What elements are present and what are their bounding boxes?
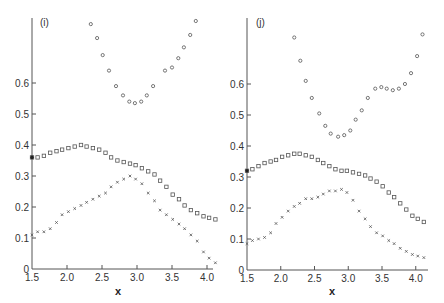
data-point (363, 174, 366, 177)
data-point (73, 207, 76, 210)
data-point (293, 152, 296, 155)
data-point (411, 214, 414, 217)
data-point (385, 87, 388, 90)
data-point (409, 72, 412, 75)
x-tick-label: 4.0 (409, 273, 423, 284)
data-point (134, 178, 137, 181)
data-point (214, 218, 217, 221)
y-tick-label: 0.6 (230, 79, 244, 90)
data-point (60, 148, 63, 151)
data-point (153, 173, 156, 176)
data-point (324, 124, 327, 127)
data-point (128, 100, 131, 103)
data-point (391, 89, 394, 92)
data-point (165, 213, 168, 216)
data-point (263, 161, 266, 164)
data-point (380, 86, 383, 89)
data-point (393, 242, 396, 245)
data-point (360, 109, 363, 112)
data-point (293, 36, 296, 39)
data-point (134, 163, 137, 166)
data-point (334, 168, 337, 171)
data-point (304, 197, 307, 200)
data-point (351, 171, 354, 174)
data-point (202, 215, 205, 218)
data-point (374, 87, 377, 90)
data-point (366, 96, 369, 99)
data-point (421, 33, 424, 36)
data-point (158, 179, 161, 182)
data-point (334, 190, 337, 193)
data-point (42, 154, 45, 157)
data-point (36, 156, 39, 159)
data-point (263, 236, 266, 239)
data-point (286, 154, 289, 157)
series-square (245, 152, 425, 224)
y-tick-label: 0.4 (230, 141, 244, 152)
data-point (73, 145, 76, 148)
data-point (190, 234, 193, 237)
data-point (275, 222, 278, 225)
y-tick-label: 0.3 (15, 171, 29, 182)
series-cross (31, 175, 217, 264)
data-point (85, 145, 88, 148)
data-point (79, 143, 82, 146)
data-point (298, 152, 301, 155)
data-point (109, 156, 112, 159)
data-point (422, 220, 425, 223)
data-point (101, 54, 104, 57)
data-point (311, 197, 314, 200)
y-tick-label: 0 (23, 264, 29, 275)
data-point (98, 148, 101, 151)
data-point (85, 201, 88, 204)
axis-marker (30, 156, 34, 160)
data-point (67, 210, 70, 213)
y-tick-label: 0.1 (15, 233, 29, 244)
data-point (411, 253, 414, 256)
data-point (287, 210, 290, 213)
data-point (182, 46, 185, 49)
data-point (114, 85, 117, 88)
data-point (329, 132, 332, 135)
data-point (352, 199, 355, 202)
data-point (159, 209, 162, 212)
data-point (345, 169, 348, 172)
data-point (165, 185, 168, 188)
data-point (49, 151, 52, 154)
data-point (369, 225, 372, 228)
data-point (416, 255, 419, 258)
data-point (153, 200, 156, 203)
data-point (96, 36, 99, 39)
x-axis-title: x (115, 285, 122, 297)
data-point (405, 250, 408, 253)
data-point (128, 162, 131, 165)
series-circle (89, 19, 197, 104)
panel-label: (j) (256, 17, 265, 28)
data-point (163, 69, 166, 72)
data-point (274, 158, 277, 161)
data-point (340, 169, 343, 172)
x-tick-label: 2.0 (60, 272, 74, 283)
y-tick-label: 0.5 (15, 109, 29, 120)
y-tick-label: 0 (238, 265, 244, 276)
data-point (171, 193, 174, 196)
data-point (170, 66, 173, 69)
data-point (189, 208, 192, 211)
panel-j: 1.52.02.53.03.54.000.10.20.30.40.50.6(j)… (230, 17, 428, 297)
panel-i: 1.52.02.53.03.54.000.10.20.30.40.50.6(i)… (15, 17, 217, 297)
y-tick-label: 0.1 (230, 234, 244, 245)
data-point (152, 85, 155, 88)
data-point (416, 55, 419, 58)
x-tick-label: 3.0 (341, 273, 355, 284)
data-point (177, 57, 180, 60)
data-point (349, 129, 352, 132)
data-point (358, 210, 361, 213)
data-point (405, 208, 408, 211)
data-point (399, 247, 402, 250)
data-point (133, 102, 136, 105)
data-point (423, 256, 426, 259)
data-point (55, 150, 58, 153)
data-point (141, 182, 144, 185)
data-point (189, 33, 192, 36)
data-point (110, 186, 113, 189)
